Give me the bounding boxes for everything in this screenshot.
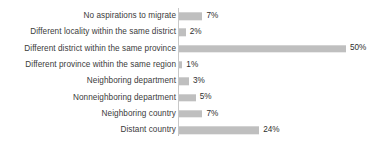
category-label: Different district within the same provi… bbox=[24, 44, 176, 54]
category-label: No aspirations to migrate bbox=[83, 11, 176, 21]
value-label: 5% bbox=[200, 94, 212, 102]
bar-group: 5% bbox=[179, 94, 212, 101]
bar-row: No aspirations to migrate 7% bbox=[0, 8, 385, 24]
value-label: 7% bbox=[206, 12, 218, 20]
bar-row: Different province within the same regio… bbox=[0, 57, 385, 73]
bar bbox=[179, 45, 346, 52]
value-label: 24% bbox=[263, 126, 279, 134]
bar-group: 7% bbox=[179, 12, 218, 19]
bar bbox=[179, 110, 202, 117]
bar-row: Different locality within the same distr… bbox=[0, 24, 385, 40]
bar bbox=[179, 61, 182, 68]
bar bbox=[179, 78, 189, 85]
bar-row: Different district within the same provi… bbox=[0, 41, 385, 57]
value-label: 2% bbox=[190, 28, 202, 36]
bar-row: Neighboring country 7% bbox=[0, 106, 385, 122]
bar bbox=[179, 29, 186, 36]
category-label: Different locality within the same distr… bbox=[30, 27, 176, 37]
category-label: Neighboring country bbox=[102, 109, 176, 119]
bar-group: 2% bbox=[179, 29, 202, 36]
value-label: 7% bbox=[206, 110, 218, 118]
category-label: Neighboring department bbox=[87, 76, 176, 86]
bar-row: Nonneighboring department 5% bbox=[0, 90, 385, 106]
bar-chart: No aspirations to migrate 7% Different l… bbox=[0, 0, 385, 144]
bar-group: 50% bbox=[179, 45, 366, 52]
bar-group: 7% bbox=[179, 110, 218, 117]
category-label: Distant country bbox=[120, 125, 176, 135]
bar-row: Distant country 24% bbox=[0, 122, 385, 138]
bar bbox=[179, 94, 196, 101]
value-label: 3% bbox=[193, 77, 205, 85]
bar-group: 3% bbox=[179, 78, 205, 85]
category-label: Different province within the same regio… bbox=[25, 60, 176, 70]
bar-group: 1% bbox=[179, 61, 198, 68]
plot-area: No aspirations to migrate 7% Different l… bbox=[0, 0, 385, 144]
bar-row: Neighboring department 3% bbox=[0, 73, 385, 89]
bar bbox=[179, 12, 202, 19]
bar bbox=[179, 127, 259, 134]
value-label: 1% bbox=[186, 61, 198, 69]
value-label: 50% bbox=[350, 45, 366, 53]
bar-group: 24% bbox=[179, 127, 280, 134]
category-label: Nonneighboring department bbox=[73, 93, 176, 103]
